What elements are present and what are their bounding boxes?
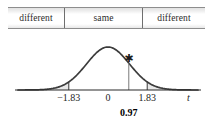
- test-statistic-value-label: 0.97: [120, 107, 138, 118]
- decision-cell-middle-same: same: [64, 8, 143, 28]
- axis-variable-label-t: t: [187, 92, 190, 103]
- decision-cell-left-different: different: [8, 8, 64, 28]
- decision-cell-right-label: different: [157, 13, 190, 23]
- normal-curve: [18, 47, 198, 90]
- tick-label-left-critical: −1.83: [57, 92, 80, 103]
- tick-label-center: 0: [106, 92, 111, 103]
- distribution-svg: ✱: [0, 29, 213, 124]
- tick-label-right-critical: 1.83: [138, 92, 156, 103]
- decision-cell-right-different: different: [143, 8, 205, 28]
- distribution-plot: ✱ −1.83 0 1.83 t 0.97: [0, 29, 213, 124]
- decision-cell-left-label: different: [19, 13, 52, 23]
- statistics-figure: different same different ✱: [0, 0, 213, 124]
- decision-bar: different same different: [8, 7, 205, 29]
- test-statistic-star-icon: ✱: [124, 52, 133, 65]
- decision-cell-middle-label: same: [94, 13, 114, 23]
